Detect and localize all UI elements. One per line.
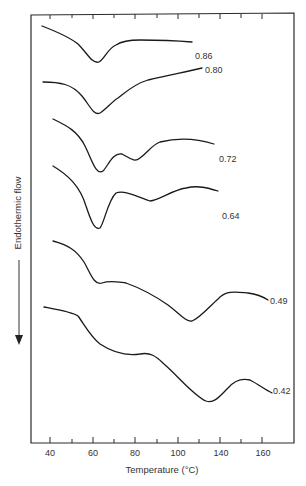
curve-0.72 xyxy=(53,119,214,172)
x-tick-label: 160 xyxy=(255,448,270,458)
chart-canvas: 40 60 80 100 140 160 Temperature (°C) En… xyxy=(0,0,306,486)
x-tick-labels: 40 60 80 100 140 160 xyxy=(45,448,271,458)
x-tick-label: 60 xyxy=(88,448,98,458)
bottom-ticks xyxy=(50,437,262,443)
curve-0.64 xyxy=(53,166,218,228)
plot-frame xyxy=(31,13,294,443)
x-axis-title: Temperature (°C) xyxy=(126,464,199,475)
curve-label-0.42: 0.42 xyxy=(273,386,291,396)
y-axis-title-group: Endothermic flow xyxy=(12,176,23,345)
x-tick-label: 80 xyxy=(130,448,140,458)
curve-0.80 xyxy=(43,68,202,114)
y-axis-title: Endothermic flow xyxy=(12,176,23,249)
curve-0.42 xyxy=(44,307,272,402)
curve-0.86 xyxy=(42,26,192,62)
curve-label-0.64: 0.64 xyxy=(222,211,240,221)
curve-0.49 xyxy=(53,241,268,321)
curve-label-0.80: 0.80 xyxy=(205,65,223,75)
curve-label-0.72: 0.72 xyxy=(219,154,237,164)
down-arrow-icon xyxy=(15,335,23,345)
x-tick-label: 140 xyxy=(213,448,228,458)
curve-label-0.49: 0.49 xyxy=(270,296,288,306)
dsc-thermogram-figure: 40 60 80 100 140 160 Temperature (°C) En… xyxy=(0,0,306,486)
x-tick-label: 100 xyxy=(170,448,185,458)
x-tick-label: 40 xyxy=(45,448,55,458)
curve-labels: 0.86 0.80 0.72 0.64 0.49 0.42 xyxy=(195,51,291,396)
curve-label-0.86: 0.86 xyxy=(195,51,213,61)
